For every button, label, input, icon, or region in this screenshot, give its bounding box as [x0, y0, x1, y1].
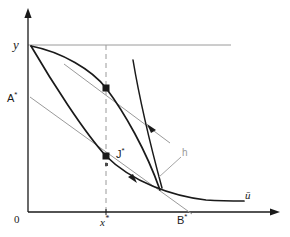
upper-indifference-curve — [31, 46, 160, 190]
a-star-label: A* — [7, 91, 17, 104]
figure-canvas: y A* J* B* x* 0 ū h — [0, 0, 290, 237]
b-star-asterisk: * — [184, 212, 187, 221]
j-star-asterisk: * — [122, 146, 125, 155]
x-axis-arrowhead — [270, 208, 280, 215]
h-curve-label: h — [182, 148, 188, 158]
origin-label: 0 — [14, 214, 20, 225]
y-intercept-label: y — [13, 38, 19, 51]
lower-budget-curve — [31, 46, 244, 201]
a-star-tangent-line — [30, 97, 192, 214]
steep-descending-curve — [133, 60, 162, 188]
upper-tangency-point — [103, 85, 110, 92]
diagram-svg — [0, 0, 290, 237]
u-bar-label: ū — [245, 190, 251, 201]
x-star-asterisk: * — [105, 214, 109, 223]
j-star-point — [103, 153, 110, 160]
a-star-asterisk: * — [14, 90, 17, 99]
b-star-label: B* — [177, 213, 187, 226]
j-star-label: J* — [116, 147, 125, 160]
y-axis-arrowhead — [24, 8, 31, 18]
j-star-secondary-dot — [105, 163, 108, 166]
h-leader-line — [159, 157, 181, 177]
x-star-label: x* — [100, 215, 109, 228]
